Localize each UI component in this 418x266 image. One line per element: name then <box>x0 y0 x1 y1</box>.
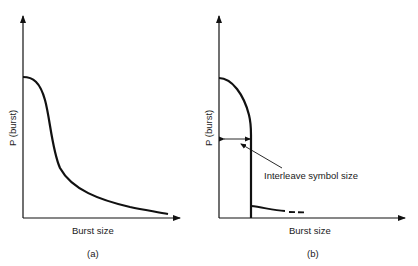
annotation-leader-line <box>241 144 282 168</box>
x-axis-label-a: Burst size <box>72 225 114 236</box>
x-axis-label-b: Burst size <box>289 225 331 236</box>
interleave-symbol-size-label: Interleave symbol size <box>264 170 358 181</box>
distribution-curve-a <box>23 77 168 214</box>
caption-b: (b) <box>307 248 319 259</box>
distribution-curve-b <box>219 78 251 218</box>
caption-a: (a) <box>87 248 99 259</box>
residual-tail-b <box>251 206 285 211</box>
residual-tail-dashed-b <box>289 212 306 213</box>
y-axis-label-a: P (burst) <box>7 110 18 146</box>
panel-a <box>23 16 180 218</box>
panel-b <box>219 16 405 218</box>
y-axis-label-b: P (burst) <box>203 110 214 146</box>
